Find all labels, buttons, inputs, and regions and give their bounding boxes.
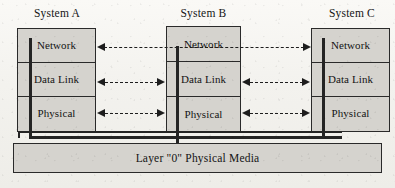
physical-peer-bc-arrow-right <box>302 109 310 117</box>
physical-peer-bc-line <box>250 113 303 114</box>
system-b-title: System B <box>166 7 241 19</box>
layer-label: Data Link <box>328 73 373 85</box>
physical-peer-bc-arrow-left <box>242 109 250 117</box>
network-peer-arrow-right <box>303 43 311 51</box>
system-c-riser-line <box>322 38 325 138</box>
system-b-riser-line <box>176 46 179 143</box>
layer-label: Data Link <box>34 73 79 85</box>
physical-peer-ab-line <box>105 113 158 114</box>
layer-label: Physical <box>184 108 222 120</box>
layer-label: Data Link <box>181 73 226 85</box>
media-trunk-corner-left <box>18 131 20 138</box>
osi-layer-diagram: System A System B System C Layer "0" Phy… <box>0 0 395 188</box>
layer-label: Network <box>331 39 370 51</box>
network-peer-connector-line <box>104 47 304 48</box>
physical-peer-ab-arrow-left <box>97 109 105 117</box>
datalink-peer-ab-arrow-left <box>97 78 105 86</box>
datalink-peer-bc-arrow-right <box>302 78 310 86</box>
datalink-peer-bc-line <box>250 82 303 83</box>
datalink-peer-ab-line <box>105 82 158 83</box>
system-a-riser-line <box>29 38 32 138</box>
layer-label: Network <box>184 38 223 50</box>
media-trunk-line <box>29 136 342 139</box>
layer-label: Network <box>37 39 76 51</box>
media-trunk-line-upper <box>18 131 342 133</box>
datalink-peer-ab-arrow-right <box>157 78 165 86</box>
system-a-title: System A <box>17 7 97 19</box>
layer-0-physical-media-bar: Layer "0" Physical Media <box>13 143 382 173</box>
layer-0-physical-media-label: Layer "0" Physical Media <box>136 152 260 164</box>
physical-peer-ab-arrow-right <box>157 109 165 117</box>
network-peer-arrow-left <box>97 43 105 51</box>
system-c-title: System C <box>312 7 392 19</box>
layer-label: Physical <box>331 107 369 119</box>
layer-label: Physical <box>37 107 75 119</box>
datalink-peer-bc-arrow-left <box>242 78 250 86</box>
